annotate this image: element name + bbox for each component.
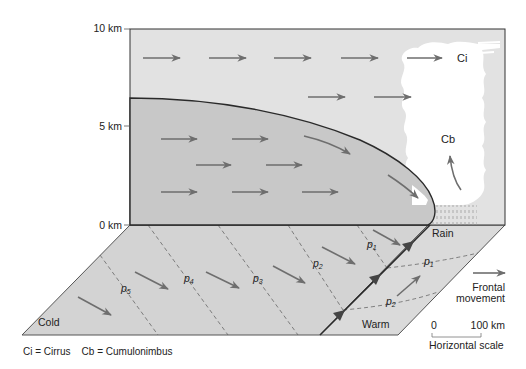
rain-label: Rain bbox=[432, 227, 454, 239]
scale-start: 0 bbox=[431, 319, 437, 331]
axis-label-10km: 10 km bbox=[93, 22, 122, 34]
warm-label: Warm bbox=[362, 318, 390, 330]
cold-front-diagram: 10 km 5 km 0 km Ci Cb Rain Cold Warm p5 … bbox=[0, 0, 526, 369]
cumulonimbus-label: Cb bbox=[441, 133, 455, 145]
altitude-axis bbox=[124, 29, 130, 225]
scale-bar bbox=[432, 333, 481, 337]
scale-end: 100 km bbox=[471, 319, 506, 331]
scale-caption: Horizontal scale bbox=[429, 339, 504, 351]
cirrus-label: Ci bbox=[457, 52, 467, 64]
cold-label: Cold bbox=[38, 316, 60, 328]
frontal-movement-label-2: movement bbox=[456, 292, 505, 304]
axis-label-0km: 0 km bbox=[99, 219, 122, 231]
abbreviations-legend: Ci = Cirrus Cb = Cumulonimbus bbox=[23, 346, 173, 357]
axis-label-5km: 5 km bbox=[99, 120, 122, 132]
